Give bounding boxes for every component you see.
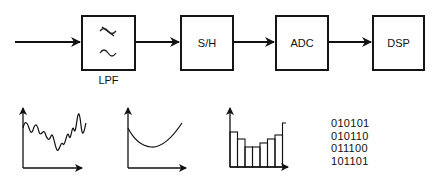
adc-label: ADC (290, 37, 313, 49)
filtered-signal-plot (128, 108, 186, 168)
sample-hold-block: S/H (180, 15, 234, 71)
dsp-label: DSP (387, 37, 410, 49)
sampled-signal-plot (230, 108, 288, 167)
binary-output: 010101 010110 011100 101101 (331, 117, 370, 167)
raw-signal-plot (23, 108, 86, 168)
binary-word: 010101 (331, 117, 370, 130)
sample-hold-label: S/H (198, 37, 216, 49)
dsp-block: DSP (372, 15, 425, 71)
adc-block: ADC (275, 15, 329, 71)
binary-word: 101101 (331, 155, 370, 168)
binary-word: 010110 (331, 130, 370, 143)
low-pass-filter-icon (81, 15, 136, 71)
binary-word: 011100 (331, 142, 370, 155)
lpf-caption: LPF (81, 74, 136, 86)
